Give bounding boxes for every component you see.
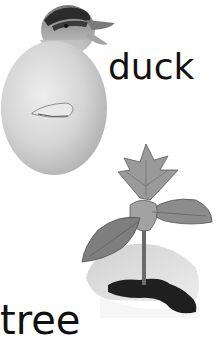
sapling-eggshell-image xyxy=(82,144,212,318)
leaf-top xyxy=(118,144,178,200)
word-label-duck: duck xyxy=(108,49,194,85)
leaf-right xyxy=(150,199,212,224)
word-label-tree: tree xyxy=(0,300,80,339)
duckling-egg-image xyxy=(1,5,115,175)
